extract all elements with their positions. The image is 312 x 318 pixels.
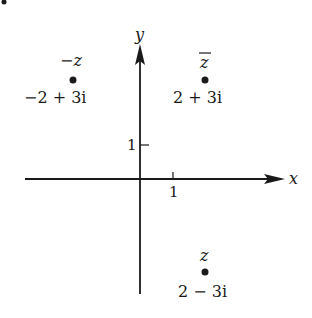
point-z-value: 2 − 3i — [178, 282, 227, 301]
x-axis-label: x — [289, 169, 298, 188]
point-conj-z-value: 2 + 3i — [173, 88, 222, 107]
point-z-symbol: z — [199, 246, 209, 265]
point-z: z 2 − 3i — [178, 246, 227, 301]
point-neg-z: −z −2 + 3i — [24, 51, 86, 107]
y-axis: y 1 — [127, 25, 149, 294]
y-axis-label: y — [134, 25, 145, 44]
point-neg-z-symbol: −z — [60, 51, 82, 70]
point-z-dot — [202, 269, 209, 276]
point-conj-z-symbol: z — [199, 53, 209, 72]
point-neg-z-value: −2 + 3i — [24, 88, 86, 107]
stray-mark — [2, 0, 7, 5]
x-axis: x 1 — [25, 169, 298, 201]
point-conj-z-dot — [202, 77, 209, 84]
x-tick-label: 1 — [169, 183, 179, 201]
point-conj-z: z 2 + 3i — [173, 53, 222, 107]
complex-plane-diagram: x 1 y 1 −z −2 + 3i z 2 + 3i z 2 − 3i — [0, 0, 312, 318]
point-neg-z-dot — [70, 77, 77, 84]
y-tick-label: 1 — [127, 136, 137, 154]
